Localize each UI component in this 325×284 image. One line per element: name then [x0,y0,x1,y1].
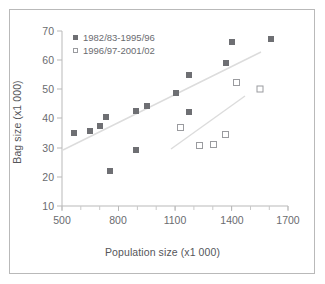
data-point [103,114,109,120]
data-point [178,125,184,131]
data-point [186,109,192,115]
legend-item-series-2: 1996/97-2001/02 [70,45,155,56]
figure: 70 60 50 40 30 20 10 500 800 1100 1400 1… [0,0,325,284]
legend: 1982/83-1995/96 1996/97-2001/02 [70,32,155,58]
legend-item-series-1: 1982/83-1995/96 [70,32,155,43]
open-square-icon [70,45,80,56]
data-point [223,60,229,66]
data-point [229,39,235,45]
data-point [97,123,103,129]
y-tick-label: 50 [28,83,54,95]
data-point [133,108,139,114]
filled-square-icon [70,32,80,43]
x-axis-title: Population size (x1 000) [0,246,325,258]
data-point [107,168,113,174]
legend-item-label: 1996/97-2001/02 [83,45,155,56]
x-tick-label: 500 [42,214,82,226]
x-tick-label: 1700 [268,214,308,226]
data-point [234,80,240,86]
x-axis-major-ticks [62,206,288,211]
data-point [87,128,93,134]
data-point [133,147,139,153]
y-tick-label: 10 [28,200,54,212]
x-tick-label: 1400 [212,214,252,226]
data-point [211,142,217,148]
trendline-series-1 [63,52,261,150]
y-tick-label: 60 [28,54,54,66]
y-axis-title: Bag size (x1 000) [11,42,23,202]
y-tick-label: 20 [28,171,54,183]
data-point [71,130,77,136]
trendline-series-2 [171,96,245,149]
legend-item-label: 1982/83-1995/96 [83,32,155,43]
data-point [144,103,150,109]
data-point [268,36,274,42]
data-point [186,72,192,78]
data-point [173,90,179,96]
y-tick-label: 40 [28,112,54,124]
x-tick-label: 800 [98,214,138,226]
x-tick-label: 1100 [155,214,195,226]
data-point [223,132,229,138]
data-point [257,86,263,92]
y-tick-label: 30 [28,142,54,154]
data-point [197,143,203,149]
y-tick-label: 70 [28,25,54,37]
y-axis-ticks [57,31,62,206]
